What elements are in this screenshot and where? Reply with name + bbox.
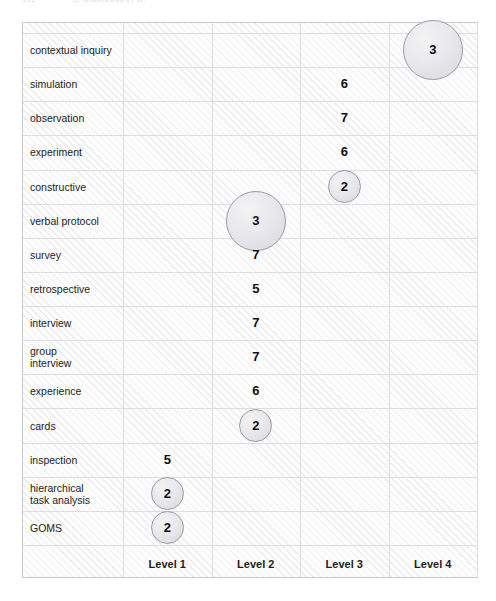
y-axis-label: constructive: [30, 181, 126, 193]
axis-line-bottom: [23, 545, 477, 546]
bubble-value-label: 3: [422, 43, 444, 57]
bubble-value-label: 7: [245, 350, 267, 364]
grid-line-vertical: [389, 23, 390, 577]
y-axis-label: hierarchical task analysis: [30, 482, 126, 506]
bubble-value-label: 7: [245, 316, 267, 330]
y-axis-label: verbal protocol: [30, 215, 126, 227]
bubble-chart-panel: contextual inquirysimulationobservatione…: [22, 22, 478, 578]
scanned-page-header: 152 A. Kurniawan et al.: [0, 0, 496, 12]
grid-line-horizontal: [23, 272, 477, 273]
bubble-value-label: 2: [333, 180, 355, 194]
bubble-value-label: 6: [333, 145, 355, 159]
y-axis-label: simulation: [30, 78, 126, 90]
grid-line-vertical: [212, 23, 213, 577]
y-axis-label: interview: [30, 317, 126, 329]
plot-area: contextual inquirysimulationobservatione…: [23, 23, 477, 577]
x-axis-label: Level 4: [389, 558, 478, 570]
grid-line-horizontal: [23, 511, 477, 512]
running-title: A. Kurniawan et al.: [72, 0, 146, 4]
y-axis-label: retrospective: [30, 283, 126, 295]
y-axis-label: observation: [30, 112, 126, 124]
x-axis-label: Level 1: [123, 558, 212, 570]
grid-line-vertical: [300, 23, 301, 577]
y-axis-label: GOMS: [30, 522, 126, 534]
bubble-value-label: 6: [245, 384, 267, 398]
bubble-value-label: 7: [245, 248, 267, 262]
x-axis-label: Level 3: [300, 558, 389, 570]
bubble-value-label: 2: [156, 521, 178, 535]
bubble-value-label: 5: [156, 453, 178, 467]
y-axis-label: inspection: [30, 454, 126, 466]
bubble-value-label: 7: [333, 111, 355, 125]
y-axis-label: cards: [30, 420, 126, 432]
y-axis-label: experiment: [30, 146, 126, 158]
y-axis-label: group interview: [30, 345, 126, 369]
grid-line-horizontal: [23, 477, 477, 478]
x-axis-label: Level 2: [212, 558, 301, 570]
page-number: 152: [22, 0, 36, 4]
y-axis-label: contextual inquiry: [30, 44, 126, 56]
bubble-value-label: 2: [156, 487, 178, 501]
bubble-value-label: 3: [245, 214, 267, 228]
grid-line-horizontal: [23, 340, 477, 341]
y-axis-label: experience: [30, 385, 126, 397]
grid-line-horizontal: [23, 170, 477, 171]
grid-line-horizontal: [23, 101, 477, 102]
grid-line-horizontal: [23, 306, 477, 307]
grid-line-horizontal: [23, 374, 477, 375]
grid-line-horizontal: [23, 135, 477, 136]
grid-line-vertical: [477, 23, 478, 577]
grid-line-horizontal: [23, 443, 477, 444]
y-axis-label: survey: [30, 249, 126, 261]
bubble-value-label: 5: [245, 282, 267, 296]
bubble-value-label: 6: [333, 77, 355, 91]
bubble-value-label: 2: [245, 419, 267, 433]
